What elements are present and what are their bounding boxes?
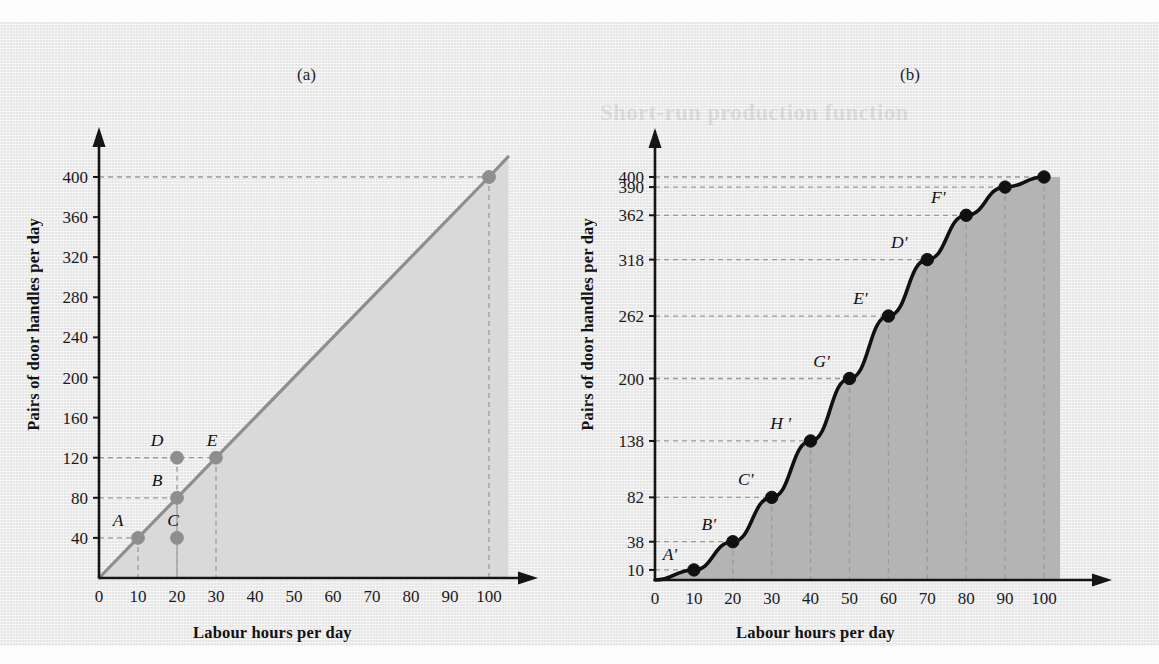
data-point[interactable] xyxy=(483,171,496,184)
y-tick-label-400: 400 xyxy=(619,168,645,187)
data-point-label-A: A xyxy=(112,510,124,530)
x-tick-label-30: 30 xyxy=(208,587,225,606)
data-point-label-D: D' xyxy=(890,232,908,252)
data-point-A[interactable] xyxy=(132,532,145,545)
data-point-label-D: D xyxy=(150,430,164,450)
data-point-label-C: C' xyxy=(738,469,754,489)
x-tick-label-80: 80 xyxy=(403,587,420,606)
data-point-F[interactable] xyxy=(960,209,972,221)
x-tick-label-60: 60 xyxy=(325,587,342,606)
data-point-D[interactable] xyxy=(921,253,933,265)
data-point[interactable] xyxy=(1038,171,1050,183)
y-tick-label-82: 82 xyxy=(627,488,644,507)
x-tick-label-10: 10 xyxy=(130,587,147,606)
x-tick-label-70: 70 xyxy=(364,587,381,606)
chart-a-x-axis-label: Labour hours per day xyxy=(193,623,352,643)
y-axis-arrow-icon xyxy=(649,128,662,148)
y-tick-label-38: 38 xyxy=(627,533,644,552)
chart-b-y-axis-label: Pairs of door handles per day xyxy=(578,218,598,431)
data-point[interactable] xyxy=(999,181,1011,193)
data-point-C[interactable] xyxy=(171,532,184,545)
x-axis-arrow-icon xyxy=(518,572,538,585)
data-point-label-E: E xyxy=(206,430,218,450)
data-point-A[interactable] xyxy=(688,564,700,576)
x-tick-label-0: 0 xyxy=(95,587,104,606)
data-point-B[interactable] xyxy=(171,491,184,504)
data-point-D[interactable] xyxy=(171,451,184,464)
chart-a-y-axis-label: Pairs of door handles per day xyxy=(24,218,44,431)
data-point-B[interactable] xyxy=(727,536,739,548)
x-tick-label-30: 30 xyxy=(763,589,780,608)
x-tick-label-40: 40 xyxy=(802,589,819,608)
data-point-label-F: F' xyxy=(930,187,946,207)
data-point-C[interactable] xyxy=(766,491,778,503)
data-point-H[interactable] xyxy=(804,435,816,447)
data-point-E[interactable] xyxy=(210,451,223,464)
y-tick-label-320: 320 xyxy=(63,248,89,267)
x-tick-label-60: 60 xyxy=(880,589,897,608)
y-tick-label-200: 200 xyxy=(619,370,645,389)
y-tick-label-400: 400 xyxy=(63,168,89,187)
y-tick-label-240: 240 xyxy=(63,328,89,347)
x-tick-label-50: 50 xyxy=(286,587,303,606)
y-tick-label-280: 280 xyxy=(63,288,89,307)
data-point-label-A: A' xyxy=(662,544,678,564)
x-tick-label-10: 10 xyxy=(685,589,702,608)
chart-b-canvas: 1038821382002623183623904000102030405060… xyxy=(556,22,1159,646)
x-tick-label-20: 20 xyxy=(724,589,741,608)
x-tick-label-40: 40 xyxy=(247,587,264,606)
y-tick-label-262: 262 xyxy=(619,307,645,326)
chart-a-canvas: 4080120160200240280320360400010203040506… xyxy=(0,22,556,646)
y-tick-label-362: 362 xyxy=(619,206,645,225)
x-tick-label-100: 100 xyxy=(1031,589,1057,608)
data-point-E[interactable] xyxy=(882,310,894,322)
data-point-label-E: E' xyxy=(852,288,868,308)
x-axis-arrow-icon xyxy=(1092,574,1112,587)
y-tick-label-10: 10 xyxy=(627,561,644,580)
data-point-label-B: B' xyxy=(702,514,717,534)
x-tick-label-90: 90 xyxy=(442,587,459,606)
x-tick-label-100: 100 xyxy=(476,587,502,606)
data-point-label-C: C xyxy=(167,510,179,530)
y-tick-label-160: 160 xyxy=(63,409,89,428)
x-tick-label-90: 90 xyxy=(997,589,1014,608)
figure-panel: Short-run production function (a) (b) 40… xyxy=(0,22,1159,646)
y-tick-label-360: 360 xyxy=(63,208,89,227)
x-tick-label-0: 0 xyxy=(651,589,660,608)
x-tick-label-70: 70 xyxy=(919,589,936,608)
x-tick-label-20: 20 xyxy=(169,587,186,606)
y-tick-label-318: 318 xyxy=(619,251,645,270)
data-point-G[interactable] xyxy=(843,372,855,384)
chart-b-x-axis-label: Labour hours per day xyxy=(736,623,895,643)
data-point-label-G: G' xyxy=(813,351,830,371)
y-tick-label-200: 200 xyxy=(63,369,89,388)
y-axis-arrow-icon xyxy=(93,127,106,147)
x-tick-label-50: 50 xyxy=(841,589,858,608)
y-tick-label-120: 120 xyxy=(63,449,89,468)
data-point-label-H: H ' xyxy=(769,413,791,433)
x-tick-label-80: 80 xyxy=(958,589,975,608)
data-point-label-B: B xyxy=(152,470,163,490)
y-tick-label-80: 80 xyxy=(71,489,88,508)
y-tick-label-138: 138 xyxy=(619,432,645,451)
y-tick-label-40: 40 xyxy=(71,529,88,548)
